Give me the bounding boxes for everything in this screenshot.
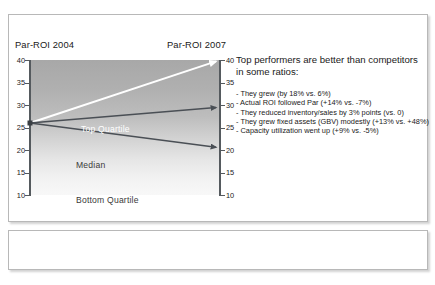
- panel-heading: Top performers are better than competito…: [236, 54, 422, 79]
- list-item: - Capacity utilization went up (+9% vs. …: [236, 126, 422, 135]
- slide-canvas: Par-ROI 2004 Par-ROI 2007 40 35 30 25 20…: [0, 0, 435, 285]
- list-item: - They reduced inventory/sales by 3% poi…: [236, 108, 422, 117]
- series-label-top-quartile: Top Quartile: [81, 124, 130, 134]
- series-label-bottom-quartile: Bottom Quartile: [76, 195, 139, 205]
- bullet-list: - They grew (by 18% vs. 6%) - Actual ROI…: [236, 89, 422, 136]
- insights-panel: Top performers are better than competito…: [236, 54, 422, 136]
- series-label-median: Median: [76, 160, 105, 170]
- footer-frame: [8, 230, 428, 270]
- list-item: - Actual ROI followed Par (+14% vs. -7%): [236, 98, 422, 107]
- list-item: - They grew (by 18% vs. 6%): [236, 89, 422, 98]
- par-roi-slope-chart: 40 35 30 25 20 15 10 40 35 30 25 20 15 1…: [15, 55, 230, 203]
- chart-title-right: Par-ROI 2007: [167, 39, 226, 50]
- list-item: - They grew fixed assets (GBV) modestly …: [236, 117, 422, 126]
- chart-title-left: Par-ROI 2004: [15, 39, 74, 50]
